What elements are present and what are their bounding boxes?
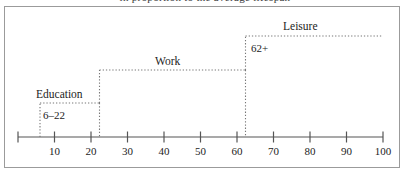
tick-label-30: 30 [122, 146, 133, 157]
range-label-education: 6–22 [43, 110, 65, 121]
tick-label-60: 60 [232, 146, 243, 157]
tick-label-80: 80 [305, 146, 316, 157]
step-label-education: Education [36, 89, 83, 101]
tick-label-90: 90 [341, 146, 352, 157]
step-outline [40, 36, 383, 137]
range-label-leisure: 62+ [251, 43, 268, 54]
tick-label-10: 10 [49, 146, 60, 157]
tick-label-50: 50 [195, 146, 206, 157]
figure-container: in proportion to the average lifespan [0, 0, 410, 174]
tick-label-40: 40 [159, 146, 170, 157]
tick-label-20: 20 [86, 146, 97, 157]
step-label-work: Work [155, 56, 180, 68]
tick-label-100: 100 [375, 146, 392, 157]
tick-label-70: 70 [268, 146, 279, 157]
step-label-leisure: Leisure [283, 21, 317, 33]
